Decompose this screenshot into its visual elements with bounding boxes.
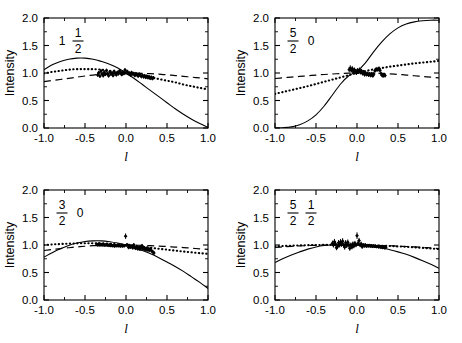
- xtick-label: 0.5: [390, 132, 406, 144]
- ytick-label: 0.0: [253, 294, 269, 306]
- plot-top-right: -1.0-0.50.00.51.00.00.51.01.52.0lIntensi…: [231, 0, 462, 172]
- curves: [275, 20, 439, 128]
- ytick-label: 1.0: [22, 67, 38, 79]
- xtick-label: -0.5: [75, 304, 95, 316]
- xtick-label: -0.5: [306, 132, 326, 144]
- panel-grid: -1.0-0.50.00.51.00.00.51.01.52.0lIntensi…: [0, 0, 462, 343]
- panel-label: 5212: [288, 198, 317, 228]
- panel-label: 112: [59, 26, 84, 56]
- label-numerator: 5: [290, 26, 297, 40]
- curve-dotted: [275, 61, 439, 94]
- x-axis-title: l: [355, 149, 359, 164]
- y-axis-title: Intensity: [3, 49, 17, 96]
- xtick-label: 0.5: [390, 304, 406, 316]
- xtick-label: 0.0: [349, 132, 365, 144]
- ytick-label: 0.0: [22, 122, 38, 134]
- label-integer: 1: [59, 34, 66, 48]
- ytick-label: 1.0: [253, 239, 269, 251]
- ytick-label: 0.5: [253, 95, 269, 107]
- data-points: [96, 68, 156, 80]
- xtick-label: 0.5: [159, 304, 175, 316]
- x-axis-title: l: [124, 321, 128, 336]
- y-axis-title: Intensity: [234, 49, 248, 96]
- label-denominator: 2: [308, 214, 315, 228]
- ytick-label: 2.0: [22, 12, 38, 24]
- panel-label: 320: [57, 198, 84, 228]
- y-axis-title: Intensity: [234, 221, 248, 268]
- label-numerator: 3: [59, 198, 66, 212]
- curves: [44, 233, 208, 288]
- ytick-label: 0.5: [22, 267, 38, 279]
- ytick-label: 1.5: [22, 212, 38, 224]
- ytick-label: 2.0: [253, 12, 269, 24]
- curve-solid: [44, 58, 208, 127]
- curve-solid: [275, 245, 439, 269]
- xtick-label: 1.0: [431, 132, 447, 144]
- axis-ticks: -1.0-0.50.00.51.00.00.51.01.52.0: [22, 184, 216, 316]
- axis-ticks: -1.0-0.50.00.51.00.00.51.01.52.0: [253, 12, 447, 144]
- xtick-label: 0.5: [159, 132, 175, 144]
- ytick-label: 2.0: [22, 184, 38, 196]
- label-denominator: 2: [75, 42, 82, 56]
- panel-label: 520: [288, 26, 315, 56]
- x-axis-title: l: [124, 149, 128, 164]
- x-axis-title: l: [355, 321, 359, 336]
- label-numerator: 1: [75, 26, 82, 40]
- axis-ticks: -1.0-0.50.00.51.00.00.51.01.52.0: [22, 12, 216, 144]
- xtick-label: 1.0: [200, 132, 216, 144]
- xtick-label: 1.0: [200, 304, 216, 316]
- ytick-label: 1.5: [253, 212, 269, 224]
- plot-bottom-left: -1.0-0.50.00.51.00.00.51.01.52.0lIntensi…: [0, 172, 231, 343]
- y-axis-title: Intensity: [3, 221, 17, 268]
- curves: [275, 232, 439, 268]
- ytick-label: 0.5: [253, 267, 269, 279]
- xtick-label: 0.0: [349, 304, 365, 316]
- ytick-label: 1.0: [253, 67, 269, 79]
- plot-bottom-right: -1.0-0.50.00.51.00.00.51.01.52.0lIntensi…: [231, 172, 462, 343]
- xtick-label: -0.5: [75, 132, 95, 144]
- panel-top-left: -1.0-0.50.00.51.00.00.51.01.52.0lIntensi…: [0, 0, 231, 172]
- xtick-label: 1.0: [431, 304, 447, 316]
- ytick-label: 1.0: [22, 239, 38, 251]
- ytick-label: 0.0: [22, 294, 38, 306]
- label-numerator: 1: [308, 198, 315, 212]
- label-denominator: 2: [59, 214, 66, 228]
- label-denominator: 2: [290, 214, 297, 228]
- ytick-label: 1.5: [22, 40, 38, 52]
- data-points: [331, 232, 388, 250]
- xtick-label: 0.0: [118, 304, 134, 316]
- ytick-label: 0.5: [22, 95, 38, 107]
- figure-multi-panel-intensity: -1.0-0.50.00.51.00.00.51.01.52.0lIntensi…: [0, 0, 462, 343]
- panel-bottom-left: -1.0-0.50.00.51.00.00.51.01.52.0lIntensi…: [0, 172, 231, 343]
- data-points: [347, 65, 387, 77]
- panel-bottom-right: -1.0-0.50.00.51.00.00.51.01.52.0lIntensi…: [231, 172, 462, 343]
- label-integer: 0: [77, 206, 84, 220]
- ytick-label: 0.0: [253, 122, 269, 134]
- panel-top-right: -1.0-0.50.00.51.00.00.51.01.52.0lIntensi…: [231, 0, 462, 172]
- ytick-label: 1.5: [253, 40, 269, 52]
- label-denominator: 2: [290, 42, 297, 56]
- xtick-label: 0.0: [118, 132, 134, 144]
- xtick-label: -0.5: [306, 304, 326, 316]
- ytick-label: 2.0: [253, 184, 269, 196]
- plot-top-left: -1.0-0.50.00.51.00.00.51.01.52.0lIntensi…: [0, 0, 231, 172]
- label-integer: 0: [308, 34, 315, 48]
- curves: [44, 58, 208, 127]
- label-numerator: 5: [290, 198, 297, 212]
